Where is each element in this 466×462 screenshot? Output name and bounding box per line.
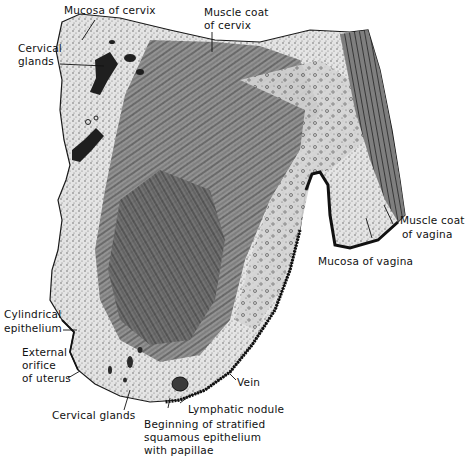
label-muscle-coat-of-cervix-line2: of cervix [204, 19, 251, 32]
label-muscle-coat-of-vagina-line1: Muscle coat [400, 214, 465, 227]
label-cylindrical-epithelium-line1: Cylindrical [4, 308, 61, 321]
label-muscle-coat-of-cervix-line1: Muscle coat [204, 6, 269, 19]
label-external-orifice-line3: of uterus [22, 372, 71, 385]
label-stratified-epithelium-line1: Beginning of stratified [144, 418, 265, 431]
label-lymphatic-nodule: Lymphatic nodule [188, 403, 284, 416]
label-external-orifice-line2: orifice [22, 359, 56, 372]
label-cylindrical-epithelium-line2: epithelium [4, 322, 62, 335]
label-cervical-glands-top-line2: glands [18, 55, 54, 68]
label-external-orifice-line1: External [22, 346, 67, 359]
label-mucosa-of-vagina: Mucosa of vagina [318, 255, 413, 268]
label-cervical-glands-top-line1: Cervical [18, 42, 62, 55]
label-mucosa-of-cervix: Mucosa of cervix [64, 4, 156, 17]
label-cervical-glands-bottom: Cervical glands [52, 409, 136, 422]
histology-figure: Mucosa of cervix Cervical glands Muscle … [0, 0, 466, 462]
label-stratified-epithelium-line2: squamous epithelium [144, 431, 261, 444]
label-stratified-epithelium-line3: with papillae [144, 444, 214, 457]
label-vein: Vein [237, 376, 260, 389]
lymphatic-nodule [172, 377, 188, 391]
label-muscle-coat-of-vagina-line2: of vagina [402, 228, 453, 241]
tissue-section-illustration [0, 0, 466, 462]
